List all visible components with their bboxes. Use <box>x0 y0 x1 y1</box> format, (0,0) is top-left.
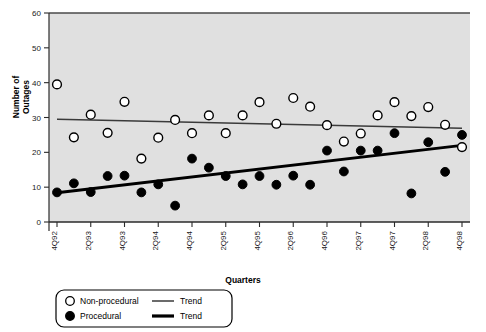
data-point-marker <box>221 172 230 181</box>
data-point-marker <box>238 111 247 120</box>
data-point-marker <box>204 111 213 120</box>
y-tick-label: 60 <box>32 9 41 18</box>
outages-scatter-chart: 0102030405060 4Q922Q934Q932Q944Q942Q954Q… <box>0 0 486 332</box>
data-point-marker <box>272 180 281 189</box>
y-tick-label: 50 <box>32 44 41 53</box>
y-tick-label: 30 <box>32 114 41 123</box>
x-tick-label: 2Q94 <box>151 230 160 250</box>
data-point-marker <box>356 146 365 155</box>
data-point-marker <box>86 188 95 197</box>
data-point-marker <box>323 121 332 130</box>
data-point-marker <box>390 98 399 107</box>
data-point-marker <box>407 112 416 121</box>
x-tick-label: 2Q96 <box>286 230 295 250</box>
data-point-marker <box>441 167 450 176</box>
data-point-marker <box>137 154 146 163</box>
y-axis-title-line2: Outages <box>21 80 31 114</box>
data-point-marker <box>120 171 129 180</box>
chart-figure: 0102030405060 4Q922Q934Q932Q944Q942Q954Q… <box>0 0 486 332</box>
legend-open-circle-icon <box>66 297 75 306</box>
data-point-marker <box>458 131 467 140</box>
data-point-marker <box>356 129 365 138</box>
data-point-marker <box>390 129 399 138</box>
data-point-marker <box>458 143 467 152</box>
data-point-marker <box>441 120 450 129</box>
data-point-marker <box>323 146 332 155</box>
data-point-marker <box>103 172 112 181</box>
data-point-marker <box>53 80 62 89</box>
data-point-marker <box>339 137 348 146</box>
legend-label-trend-non-procedural: Trend <box>180 296 202 306</box>
x-tick-label: 4Q92 <box>50 230 59 250</box>
data-point-marker <box>289 94 298 103</box>
x-tick-label: 2Q97 <box>354 230 363 250</box>
x-tick-label: 2Q95 <box>219 230 228 250</box>
y-tick-label: 0 <box>37 218 42 227</box>
data-point-marker <box>137 188 146 197</box>
y-axis-title-line1: Number of <box>11 76 21 119</box>
data-point-marker <box>188 129 197 138</box>
data-point-marker <box>171 116 180 125</box>
data-point-marker <box>221 129 230 138</box>
data-point-marker <box>306 102 315 111</box>
data-point-marker <box>272 119 281 128</box>
data-point-marker <box>154 180 163 189</box>
data-point-marker <box>339 167 348 176</box>
data-point-marker <box>188 154 197 163</box>
data-point-marker <box>120 97 129 106</box>
x-tick-label: 4Q97 <box>388 230 397 250</box>
legend-label-trend-procedural: Trend <box>180 311 202 321</box>
data-point-marker <box>103 128 112 137</box>
legend-label-procedural: Procedural <box>80 311 121 321</box>
data-point-marker <box>255 98 264 107</box>
data-point-marker <box>69 179 78 188</box>
x-axis-title: Quarters <box>225 275 261 285</box>
data-point-marker <box>424 103 433 112</box>
x-tick-label: 4Q98 <box>455 230 464 250</box>
data-point-marker <box>204 163 213 172</box>
x-tick-label: 2Q98 <box>421 230 430 250</box>
legend-filled-circle-icon <box>66 312 75 321</box>
y-tick-label: 20 <box>32 148 41 157</box>
data-point-marker <box>373 146 382 155</box>
x-tick-label: 4Q94 <box>185 230 194 250</box>
x-tick-label: 4Q96 <box>320 230 329 250</box>
data-point-marker <box>306 180 315 189</box>
data-point-marker <box>238 180 247 189</box>
x-tick-label: 4Q93 <box>118 230 127 250</box>
data-point-marker <box>86 110 95 119</box>
data-point-marker <box>154 133 163 142</box>
data-point-marker <box>373 111 382 120</box>
data-point-marker <box>407 189 416 198</box>
data-point-marker <box>171 201 180 210</box>
data-point-marker <box>255 172 264 181</box>
legend-label-non-procedural: Non-procedural <box>80 296 139 306</box>
data-point-marker <box>424 138 433 147</box>
x-tick-label: 4Q95 <box>253 230 262 250</box>
chart-legend: Non-procedural Trend Procedural Trend <box>56 290 232 327</box>
x-tick-label: 2Q93 <box>84 230 93 250</box>
data-point-marker <box>289 171 298 180</box>
data-point-marker <box>69 133 78 142</box>
y-tick-label: 40 <box>32 79 41 88</box>
y-tick-label: 10 <box>32 183 41 192</box>
data-point-marker <box>53 188 62 197</box>
